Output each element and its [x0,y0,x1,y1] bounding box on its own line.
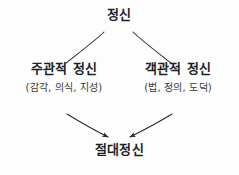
node-objective-spirit-label: 객관적 정신 [122,62,234,77]
edge-objective-to-absolute [130,114,172,137]
edge-subjective-to-absolute [67,114,108,137]
node-objective-spirit: 객관적 정신 (법, 정의, 도덕) [122,62,234,93]
node-spirit-label: 정신 [0,8,239,23]
node-subjective-spirit-detail: (감각, 의식, 지성) [8,82,120,94]
node-absolute-spirit: 절대정신 [0,143,239,158]
edge-spirit-to-objective [133,32,171,63]
diagram-canvas: 정신 주관적 정신 (감각, 의식, 지성) 객관적 정신 (법, 정의, 도덕… [0,0,239,175]
node-spirit: 정신 [0,8,239,23]
node-objective-spirit-detail: (법, 정의, 도덕) [122,82,234,94]
node-absolute-spirit-label: 절대정신 [0,143,239,158]
node-subjective-spirit: 주관적 정신 (감각, 의식, 지성) [8,62,120,93]
node-subjective-spirit-label: 주관적 정신 [8,62,120,77]
edge-spirit-to-subjective [66,32,104,63]
